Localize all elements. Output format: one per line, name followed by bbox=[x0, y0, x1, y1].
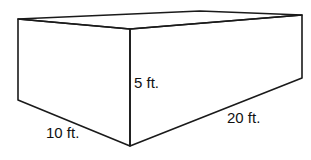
length-label: 20 ft. bbox=[227, 109, 260, 126]
width-label: 10 ft. bbox=[46, 124, 79, 141]
height-label: 5 ft. bbox=[134, 74, 159, 91]
prism-diagram: 5 ft. 10 ft. 20 ft. bbox=[0, 0, 311, 160]
